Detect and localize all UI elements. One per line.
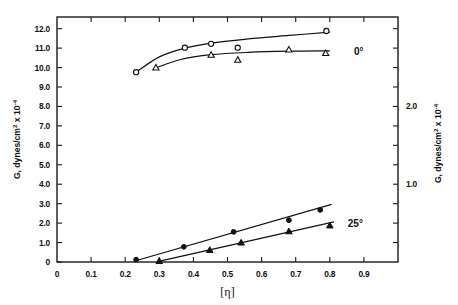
x-tick-label: 0.3 <box>154 269 166 279</box>
y-tick-label-left: 7.0 <box>39 121 51 131</box>
x-tick-label: 0.2 <box>120 269 132 279</box>
x-tick-label: 0.6 <box>256 269 268 279</box>
data-point-filled-circle <box>318 207 323 212</box>
y-tick-label-left: 9.0 <box>39 82 51 92</box>
data-point-open-triangle <box>286 47 292 53</box>
y-tick-label-left: 5.0 <box>39 160 51 170</box>
x-tick-label: 0.8 <box>324 269 336 279</box>
x-axis-title: [η] <box>220 285 234 299</box>
figure-container: 01.02.03.04.05.06.07.08.09.010.011.012.0… <box>0 0 458 305</box>
y-tick-label-left: 10.0 <box>34 63 50 73</box>
y-tick-label-left: 0 <box>46 257 51 267</box>
y-tick-label-left: 11.0 <box>35 43 51 53</box>
x-tick-label: 0 <box>55 269 60 279</box>
fit-curve <box>136 32 330 72</box>
data-point-open-triangle <box>235 57 241 63</box>
data-point-filled-circle <box>231 229 236 234</box>
scatter-plot: 01.02.03.04.05.06.07.08.09.010.011.012.0… <box>0 0 458 305</box>
x-tick-label: 0.4 <box>188 269 200 279</box>
y-axis-title-right: G, dynes/cm2 x 10-4 <box>432 103 443 183</box>
series-annotation-label: 0° <box>354 46 364 57</box>
x-tick-label: 0.7 <box>290 269 302 279</box>
y-tick-label-left: 3.0 <box>39 199 51 209</box>
data-point-open-circle <box>182 45 187 50</box>
x-tick-label: 0.5 <box>222 269 234 279</box>
y-tick-label-right: 2.0 <box>406 101 418 111</box>
data-point-filled-circle <box>134 257 139 262</box>
data-point-open-circle <box>235 45 240 50</box>
series-annotation-label: 25° <box>348 218 363 229</box>
y-tick-label-left: 4.0 <box>39 179 51 189</box>
y-tick-label-left: 6.0 <box>39 140 51 150</box>
data-point-filled-circle <box>286 218 291 223</box>
x-tick-label: 0.9 <box>358 269 370 279</box>
data-point-open-circle <box>324 28 329 33</box>
fit-curve <box>156 51 330 68</box>
y-tick-label-left: 1.0 <box>39 238 51 248</box>
x-tick-label: 0.1 <box>86 269 98 279</box>
y-tick-label-right: 1.0 <box>406 179 418 189</box>
y-tick-label-left: 8.0 <box>39 101 51 111</box>
y-tick-label-left: 12.0 <box>34 24 50 34</box>
data-point-open-circle <box>209 41 214 46</box>
data-point-open-triangle <box>208 52 214 58</box>
data-point-open-circle <box>134 70 139 75</box>
data-point-open-triangle <box>153 64 159 70</box>
y-tick-label-left: 2.0 <box>39 218 51 228</box>
fit-line <box>158 222 334 262</box>
data-point-filled-triangle <box>286 228 293 234</box>
y-axis-title-left: G, dynes/cm2 x 10-4 <box>11 99 22 179</box>
data-point-filled-circle <box>181 244 186 249</box>
